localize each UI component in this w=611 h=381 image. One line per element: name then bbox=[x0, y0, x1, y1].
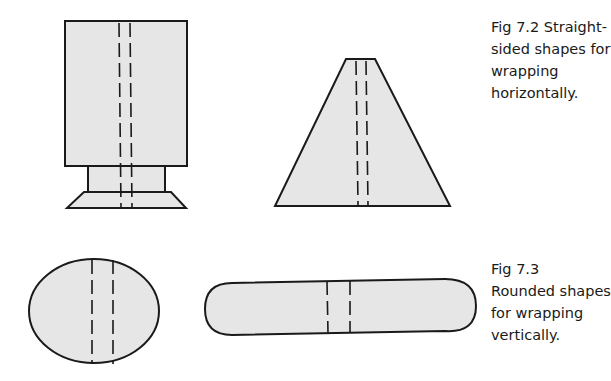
figure-caption-7-3: Fig 7.3 Rounded shapes for wrapping vert… bbox=[491, 258, 611, 346]
caption-line: sided shapes for bbox=[491, 38, 610, 60]
figure-caption-7-2: Fig 7.2 Straight- sided shapes for wrapp… bbox=[491, 16, 610, 104]
caption-line: Rounded shapes bbox=[491, 280, 611, 302]
pedestal-neck bbox=[88, 166, 165, 192]
fold-line-left bbox=[327, 281, 328, 333]
caption-line: Fig 7.2 Straight- bbox=[491, 16, 610, 38]
capsule-shape bbox=[205, 279, 476, 335]
caption-line: Fig 7.3 bbox=[491, 258, 611, 280]
pedestal-base bbox=[67, 192, 186, 208]
caption-line: horizontally. bbox=[491, 82, 610, 104]
rectangle-on-pedestal-shape bbox=[65, 21, 187, 208]
caption-line: vertically. bbox=[491, 324, 611, 346]
ellipse-shape bbox=[29, 259, 159, 364]
tall-rectangle bbox=[65, 21, 187, 166]
caption-line: wrapping bbox=[491, 60, 610, 82]
trapezoid-shape bbox=[275, 59, 450, 206]
caption-line: for wrapping bbox=[491, 302, 611, 324]
